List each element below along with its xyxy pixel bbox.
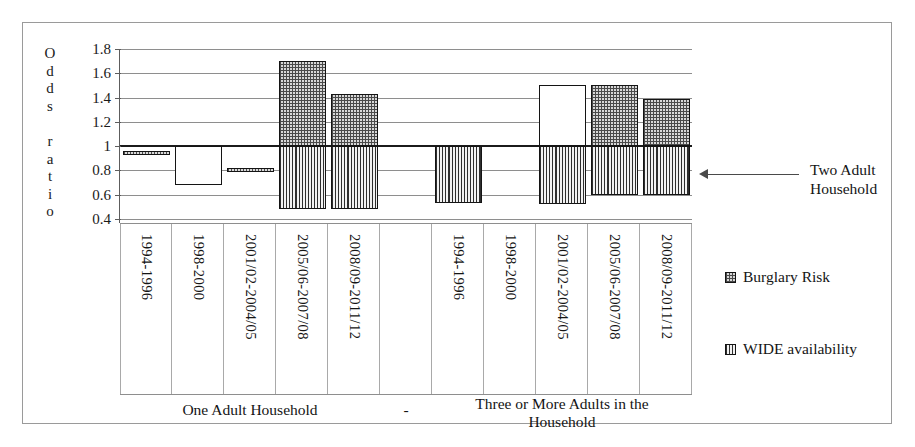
plot-area: 0.40.60.811.21.41.61.8: [120, 49, 692, 219]
bar: [279, 61, 326, 146]
group-caption-line: Three or More Adults in the: [432, 395, 692, 413]
annotation-line: Two Adult: [810, 160, 915, 179]
dotted-swatch-icon: [725, 272, 736, 283]
chart-frame: Odds.ratio 0.40.60.811.21.41.61.8 1994-1…: [22, 22, 892, 424]
category-cell: 2005/06-2007/08: [276, 224, 328, 394]
category-label: 1998-2000: [189, 234, 206, 300]
y-axis-title-letter: t: [41, 168, 59, 186]
y-axis-title-letter: d: [41, 80, 59, 98]
y-tick-mark: [115, 98, 121, 99]
legend-item[interactable]: Burglary Risk: [725, 269, 830, 285]
y-axis-title-letter: s: [41, 98, 59, 116]
bar: [643, 99, 690, 146]
y-axis-title-letter: r: [41, 133, 59, 151]
y-axis-title-letter: d: [41, 63, 59, 81]
bar: [123, 151, 170, 155]
category-cell: 1998-2000: [172, 224, 224, 394]
group-caption-line: Household: [432, 413, 692, 431]
category-cell: 1994-1996: [432, 224, 484, 394]
y-tick-label: 0.4: [92, 212, 111, 227]
gridline: [120, 219, 692, 220]
y-tick-label: 1.6: [92, 66, 111, 81]
y-tick-label: 1: [104, 139, 112, 154]
category-label: 1994-1996: [449, 234, 466, 300]
y-tick-label: 0.6: [92, 188, 111, 203]
vertical-lines-swatch-icon: [725, 344, 736, 355]
left-arrow-icon: [699, 169, 708, 179]
bar: [591, 85, 638, 146]
y-tick-label: 1.8: [92, 42, 111, 57]
group-caption: -: [380, 401, 432, 419]
category-label: 1994-1996: [138, 234, 155, 300]
category-label: 1998-2000: [501, 234, 518, 300]
gridline: [120, 195, 692, 196]
y-tick-mark: [115, 49, 121, 50]
bar: [227, 168, 274, 172]
y-axis-title-letter: o: [41, 203, 59, 221]
category-axis: 1994-19961998-20002001/02-2004/052005/06…: [120, 223, 692, 395]
category-cell: 1998-2000: [484, 224, 536, 394]
y-tick-mark: [115, 73, 121, 74]
reference-line-annotation: Two AdultHousehold: [810, 160, 915, 198]
legend-item[interactable]: WIDE availability: [725, 341, 857, 357]
annotation-line: Household: [810, 179, 915, 198]
y-tick-mark: [115, 219, 121, 220]
bar: [331, 94, 378, 146]
category-cell: 1994-1996: [120, 224, 172, 394]
legend-label: Burglary Risk: [743, 269, 830, 285]
bar: [279, 146, 326, 209]
bar: [175, 146, 222, 185]
category-label: 2008/09-2011/12: [345, 234, 362, 339]
category-label: 2005/06-2007/08: [605, 234, 622, 340]
category-cell: 2005/06-2007/08: [588, 224, 640, 394]
gridline: [120, 49, 692, 50]
category-cell: 2008/09-2011/12: [328, 224, 380, 394]
y-axis-title-letter: i: [41, 186, 59, 204]
y-tick-label: 0.8: [92, 163, 111, 178]
category-label: 2005/06-2007/08: [293, 234, 310, 340]
y-tick-label: 1.2: [92, 115, 111, 130]
bar: [435, 146, 482, 203]
bar: [643, 146, 690, 195]
category-label: 2001/02-2004/05: [241, 234, 258, 340]
category-label: 2008/09-2011/12: [657, 234, 674, 339]
y-tick-mark: [115, 122, 121, 123]
group-caption: One Adult Household: [120, 401, 380, 419]
bar: [539, 85, 586, 146]
category-cell: 2008/09-2011/12: [640, 224, 692, 394]
bar: [331, 146, 378, 209]
bar: [591, 146, 638, 195]
category-cell: 2001/02-2004/05: [224, 224, 276, 394]
y-tick-label: 1.4: [92, 91, 111, 106]
gridline: [120, 73, 692, 74]
y-axis-title: Odds.ratio: [41, 45, 59, 221]
y-tick-mark: [115, 170, 121, 171]
category-cell: 2001/02-2004/05: [536, 224, 588, 394]
bar: [539, 146, 586, 204]
y-axis-title-letter: O: [41, 45, 59, 63]
y-tick-mark: [115, 146, 121, 147]
category-cell-empty: [380, 224, 432, 394]
reference-line-arrow-shaft: [703, 174, 799, 175]
legend-label: WIDE availability: [743, 341, 857, 357]
y-tick-mark: [115, 195, 121, 196]
y-axis-title-letter: a: [41, 151, 59, 169]
group-caption: Three or More Adults in theHousehold: [432, 395, 692, 431]
category-label: 2001/02-2004/05: [553, 234, 570, 340]
